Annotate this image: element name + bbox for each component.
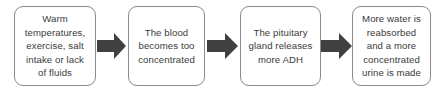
flowchart-node-2-label: The blood becomes too concentrated <box>132 26 201 66</box>
flowchart-diagram: Warm temperatures, exercise, salt intake… <box>0 0 440 92</box>
flowchart-node-1: Warm temperatures, exercise, salt intake… <box>14 6 96 86</box>
flowchart-node-2: The blood becomes too concentrated <box>128 6 205 86</box>
flowchart-node-3: The pituitary gland releases more ADH <box>240 6 321 86</box>
flowchart-node-3-label: The pituitary gland releases more ADH <box>244 26 317 66</box>
flow-arrow-right-icon-3 <box>321 32 352 60</box>
flow-arrow-right-icon-2 <box>207 32 238 60</box>
flowchart-node-4-label: More water is reabsorbed and a more conc… <box>356 12 427 79</box>
flowchart-node-4: More water is reabsorbed and a more conc… <box>352 6 431 86</box>
flow-arrow-right-icon-1 <box>97 32 126 60</box>
flowchart-node-1-label: Warm temperatures, exercise, salt intake… <box>18 12 92 79</box>
